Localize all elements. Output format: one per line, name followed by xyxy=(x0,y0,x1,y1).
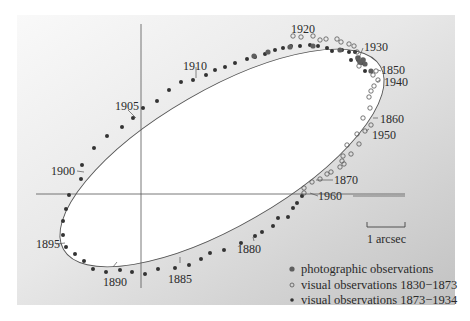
year-label-1880: 1880 xyxy=(237,242,261,256)
legend-photographic-marker xyxy=(289,266,294,271)
year-label-1930: 1930 xyxy=(364,40,388,54)
year-label-1900: 1900 xyxy=(51,164,75,178)
legend: photographic observations visual observa… xyxy=(289,262,458,307)
orbit-chart: 1910 1905 1900 1895 1890 1885 1880 1960 … xyxy=(0,0,470,321)
year-label-1920: 1920 xyxy=(291,22,315,36)
year-label-1860: 1860 xyxy=(380,112,404,126)
year-label-1940: 1940 xyxy=(384,75,408,89)
year-label-1895: 1895 xyxy=(36,237,60,251)
year-label-1905: 1905 xyxy=(115,99,139,113)
scale-bar-label: 1 arcsec xyxy=(367,232,406,246)
legend-visual-early-label: visual observations 1830−1873 xyxy=(301,278,457,292)
year-label-1870: 1870 xyxy=(334,173,358,187)
legend-visual-late-marker xyxy=(290,298,294,302)
legend-visual-late-label: visual observations 1873−1934 xyxy=(301,293,458,307)
year-label-1950: 1950 xyxy=(372,128,396,142)
year-label-1960: 1960 xyxy=(318,189,342,203)
year-label-1885: 1885 xyxy=(168,272,192,286)
year-label-1890: 1890 xyxy=(103,275,127,289)
legend-photographic-label: photographic observations xyxy=(301,262,433,276)
year-label-1910: 1910 xyxy=(183,59,207,73)
year-label-1850: 1850 xyxy=(381,63,405,77)
